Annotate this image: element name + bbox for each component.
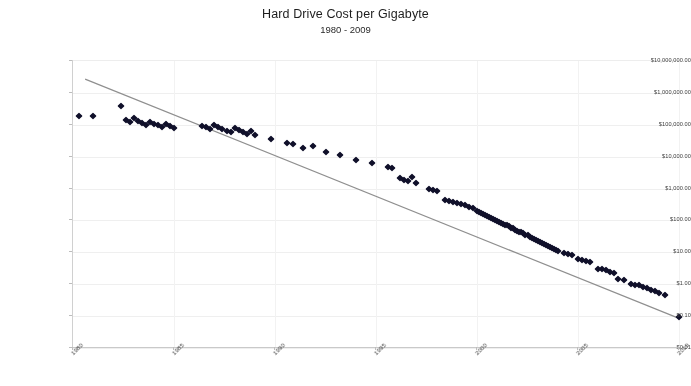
chart-subtitle: 1980 - 2009 (0, 23, 691, 36)
scatter-point (251, 131, 258, 138)
scatter-points-layer (73, 61, 679, 348)
y-axis-tick-label: $10,000.00 (625, 153, 691, 159)
scatter-point (300, 144, 307, 151)
y-axis-tick-mark (69, 124, 72, 125)
scatter-point (118, 103, 125, 110)
y-axis-tick-mark (69, 60, 72, 61)
y-axis-tick-label: $0.10 (625, 312, 691, 318)
gridline-vertical (679, 61, 680, 348)
y-axis-tick-label: $1,000,000.00 (625, 89, 691, 95)
y-axis-tick-label: $100,000.00 (625, 121, 691, 127)
chart-container: Hard Drive Cost per Gigabyte 1980 - 2009… (0, 0, 691, 386)
scatter-point (267, 135, 274, 142)
scatter-point (661, 292, 668, 299)
title-block: Hard Drive Cost per Gigabyte 1980 - 2009 (0, 6, 691, 36)
scatter-point (389, 165, 396, 172)
y-axis-tick-label: $1,000.00 (625, 185, 691, 191)
y-axis-tick-label: $10.00 (625, 248, 691, 254)
y-axis-tick-mark (69, 251, 72, 252)
scatter-point (76, 112, 83, 119)
scatter-point (413, 179, 420, 186)
x-axis-tick-mark (173, 347, 174, 350)
chart-title: Hard Drive Cost per Gigabyte (0, 6, 691, 22)
y-axis-tick-mark (69, 188, 72, 189)
scatter-point (587, 258, 594, 265)
scatter-point (90, 112, 97, 119)
scatter-point (310, 142, 317, 149)
y-axis-tick-mark (69, 92, 72, 93)
y-axis-tick-mark (69, 315, 72, 316)
x-axis-tick-mark (678, 347, 679, 350)
plot-area (72, 60, 680, 349)
y-axis-tick-mark (69, 283, 72, 284)
y-axis-line (72, 60, 73, 348)
x-axis-tick-mark (375, 347, 376, 350)
scatter-point (290, 141, 297, 148)
scatter-point (433, 188, 440, 195)
y-axis-tick-label: $1.00 (625, 280, 691, 286)
scatter-point (352, 157, 359, 164)
scatter-point (322, 148, 329, 155)
x-axis-tick-mark (577, 347, 578, 350)
y-axis-tick-label: $100.00 (625, 216, 691, 222)
y-axis-tick-mark (69, 219, 72, 220)
scatter-point (336, 152, 343, 159)
y-axis-tick-label: $10,000,000.00 (625, 57, 691, 63)
scatter-point (368, 159, 375, 166)
x-axis-tick-mark (476, 347, 477, 350)
x-axis-tick-mark (72, 347, 73, 350)
y-axis-tick-mark (69, 156, 72, 157)
x-axis-tick-mark (274, 347, 275, 350)
scatter-point (170, 124, 177, 131)
